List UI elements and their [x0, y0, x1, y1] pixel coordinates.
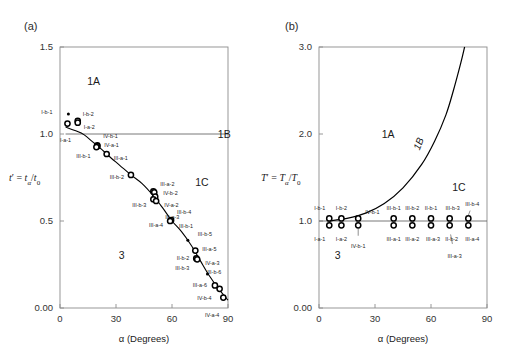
region-label-3: 3 — [335, 249, 341, 261]
region-label-1A: 1A — [87, 75, 100, 87]
data-point-marker — [65, 121, 70, 126]
data-point-label: III-b-4 — [465, 201, 479, 207]
panel-label: (b) — [285, 20, 298, 32]
data-point-marker — [466, 216, 471, 221]
plot-frame — [319, 47, 487, 308]
y-tick-label: 3.0 — [299, 41, 312, 52]
x-axis-title: α (Degrees) — [378, 333, 428, 344]
x-tick-label: 60 — [167, 313, 178, 324]
data-point-label: I-a-2 — [84, 124, 95, 130]
data-point-label: III-b-5 — [198, 231, 212, 237]
y-tick-label: 1.0 — [299, 215, 312, 226]
data-point-marker — [67, 112, 70, 115]
data-point-label: III-a-3 — [448, 253, 462, 259]
data-point-marker — [391, 223, 396, 228]
data-point-label: I-b-1 — [41, 109, 52, 115]
data-point-label: I-b-2 — [336, 205, 347, 211]
data-point-label: III-a-1 — [114, 155, 128, 161]
data-point-label: III-a-6 — [193, 282, 207, 288]
y-tick-label: 2.0 — [299, 128, 312, 139]
data-point-marker — [94, 144, 99, 149]
y-tick-label: 0.00 — [294, 302, 313, 313]
data-point-label: III-b-2 — [405, 205, 419, 211]
data-point-marker — [168, 218, 173, 223]
data-point-label: III-b-3 — [175, 265, 189, 271]
data-point-label: IV-b-4 — [197, 295, 211, 301]
x-tick-label: 30 — [111, 313, 122, 324]
data-point-label: II-b-1 — [425, 205, 438, 211]
data-point-marker — [154, 198, 159, 203]
boundary-curve-label: 1B — [411, 136, 426, 152]
data-point-label: III-a-1 — [387, 236, 401, 242]
y-tick-label: 1.5 — [40, 41, 53, 52]
y-tick-label: 0.5 — [40, 215, 53, 226]
data-point-marker — [104, 151, 109, 156]
data-point-marker — [186, 239, 189, 242]
label-leader-line — [468, 211, 470, 216]
x-tick-label: 90 — [223, 313, 234, 324]
data-point-label: III-b-1 — [76, 153, 90, 159]
data-point-marker — [410, 216, 415, 221]
data-point-label: III-a-5 — [202, 246, 216, 252]
boundary-curve-1b — [328, 47, 464, 221]
data-point-label: III-b-4 — [177, 209, 191, 215]
data-point-marker — [447, 216, 452, 221]
panel-b: (b)0.001.02.03.00306090α (Degrees)T′ = T… — [257, 0, 514, 360]
data-point-label: I-a-1 — [314, 236, 325, 242]
data-point-label: I-a-2 — [336, 236, 347, 242]
y-axis-title: T′ = Tα/T0 — [261, 172, 301, 187]
data-point-marker — [447, 223, 452, 228]
data-point-label: III-b-2 — [110, 174, 124, 180]
region-label-1C: 1C — [452, 181, 466, 193]
data-point-label: III-a-4 — [465, 236, 479, 242]
data-point-marker — [128, 172, 133, 177]
data-point-label: IV-a-3 — [205, 260, 219, 266]
y-tick-label: 0.00 — [35, 302, 54, 313]
data-point-marker — [356, 223, 361, 228]
data-point-label: IV-b-1 — [365, 209, 379, 215]
data-point-marker — [356, 216, 361, 221]
data-point-label: I-b-1 — [314, 205, 325, 211]
x-tick-label: 60 — [426, 313, 437, 324]
x-tick-label: 30 — [370, 313, 381, 324]
data-point-label: IV-b-2 — [163, 190, 177, 196]
data-point-label: IV-b-1 — [351, 243, 365, 249]
data-point-label: I-b-2 — [83, 111, 94, 117]
data-point-label: IV-a-2 — [164, 202, 178, 208]
y-axis-title-text: t′ = tα/t0 — [9, 172, 41, 187]
data-point-marker — [217, 286, 222, 291]
data-point-label: IV-b-1 — [103, 133, 117, 139]
data-point-label: III-b-3 — [446, 205, 460, 211]
region-label-3: 3 — [119, 249, 125, 261]
region-label-1C: 1C — [195, 176, 209, 188]
data-point-marker — [428, 216, 433, 221]
panel-b-plot: (b)0.001.02.03.00306090α (Degrees)T′ = T… — [257, 0, 515, 360]
data-point-marker — [327, 216, 332, 221]
data-point-label: III-a-2 — [405, 236, 419, 242]
y-tick-label: 1.0 — [40, 128, 53, 139]
data-point-marker — [75, 120, 80, 125]
y-axis-title: t′ = tα/t0 — [9, 172, 41, 187]
x-axis-title: α (Degrees) — [119, 333, 169, 344]
y-axis-title-text: T′ = Tα/T0 — [261, 172, 301, 187]
data-point-label: II-b-2 — [177, 255, 190, 261]
panel-label: (a) — [24, 20, 37, 32]
x-tick-label: 90 — [482, 313, 493, 324]
figure-container: (a)0.000.51.01.50306090α (Degrees)t′ = t… — [0, 0, 515, 360]
data-point-label: IV-a-4 — [205, 312, 219, 318]
data-point-marker — [193, 248, 198, 253]
data-point-label: III-b-6 — [207, 269, 221, 275]
region-label-1B: 1B — [218, 128, 231, 140]
data-point-marker — [339, 223, 344, 228]
data-point-label: III-b-1 — [179, 223, 193, 229]
data-point-marker — [391, 216, 396, 221]
data-point-label: III-b-1 — [387, 205, 401, 211]
data-point-marker — [428, 223, 433, 228]
data-point-marker — [339, 216, 344, 221]
data-point-marker — [206, 273, 209, 276]
panel-a: (a)0.000.51.01.50306090α (Degrees)t′ = t… — [0, 0, 257, 360]
data-point-label: III-a-3 — [426, 236, 440, 242]
data-point-marker — [195, 257, 200, 262]
data-point-label: I-a-1 — [60, 137, 71, 143]
data-point-marker — [410, 223, 415, 228]
